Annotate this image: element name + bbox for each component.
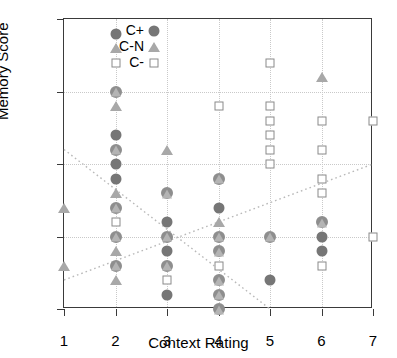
legend-marker-triangle-icon <box>148 42 160 52</box>
x-axis-tick-label: 2 <box>96 333 136 348</box>
x-axis-tick <box>322 309 323 316</box>
data-point-filled-circle <box>316 246 327 257</box>
data-point-open-square <box>266 102 275 111</box>
data-point-circle-with-triangle <box>213 245 225 257</box>
data-point-circle-with-triangle <box>110 86 122 98</box>
legend-label-c-n: C-N <box>119 38 144 54</box>
data-point-circle-with-triangle <box>316 216 328 228</box>
data-point-filled-circle <box>162 246 173 257</box>
legend-label-c-plus: C+ <box>126 22 144 38</box>
y-axis-tick <box>57 237 64 238</box>
data-point-filled-circle <box>213 202 224 213</box>
data-point-open-square <box>266 116 275 125</box>
data-point-triangle <box>110 101 122 111</box>
data-point-circle-with-triangle <box>213 303 225 315</box>
data-point-filled-circle <box>162 217 173 228</box>
x-axis-tick <box>373 309 374 316</box>
legend-label-c-minus: C- <box>129 54 144 70</box>
data-point-circle-with-triangle <box>213 289 225 301</box>
x-axis-tick <box>64 309 65 316</box>
data-point-circle-with-triangle <box>110 202 122 214</box>
data-point-open-square <box>317 261 326 270</box>
data-point-circle-with-triangle <box>161 260 173 272</box>
x-axis-tick-label: 7 <box>353 333 393 348</box>
x-axis-tick-label: 6 <box>302 333 342 348</box>
data-point-filled-circle <box>110 173 121 184</box>
legend: C+ C-N C- <box>76 23 188 71</box>
data-point-open-square <box>214 261 223 270</box>
y-axis-tick <box>57 309 64 310</box>
data-point-filled-circle <box>265 275 276 286</box>
legend-marker-filled-circle-icon <box>149 26 160 37</box>
data-point-open-square <box>266 131 275 140</box>
data-point-open-square <box>111 218 120 227</box>
data-point-filled-circle <box>162 289 173 300</box>
data-point-triangle <box>110 246 122 256</box>
data-point-open-square <box>111 58 120 67</box>
data-point-open-square <box>369 232 378 241</box>
data-point-filled-circle <box>316 231 327 242</box>
y-axis-label: Memory Score <box>0 22 11 120</box>
data-point-circle-with-triangle <box>110 231 122 243</box>
data-point-open-square <box>317 116 326 125</box>
data-point-open-square <box>369 116 378 125</box>
data-point-triangle <box>110 275 122 285</box>
x-axis-tick-label: 5 <box>250 333 290 348</box>
data-point-filled-circle <box>110 28 121 39</box>
data-point-triangle <box>58 203 70 213</box>
data-point-open-square <box>317 174 326 183</box>
x-axis-tick-label: 1 <box>44 333 84 348</box>
data-point-circle-with-triangle <box>213 274 225 286</box>
scatter-plot-figure: Memory Score Context Rating C+ C-N C- 05… <box>0 0 397 358</box>
x-axis-tick <box>167 309 168 316</box>
x-axis-tick-label: 4 <box>199 333 239 348</box>
data-point-triangle <box>110 43 122 53</box>
legend-item-c-plus: C+ <box>76 23 188 39</box>
data-point-circle-with-triangle <box>110 144 122 156</box>
data-point-open-square <box>163 276 172 285</box>
x-axis-tick <box>116 309 117 316</box>
data-point-triangle <box>316 72 328 82</box>
data-point-triangle <box>213 217 225 227</box>
data-point-circle-with-triangle <box>264 231 276 243</box>
data-point-open-square <box>317 189 326 198</box>
data-point-circle-with-triangle <box>110 260 122 272</box>
x-axis-tick-label: 3 <box>147 333 187 348</box>
legend-item-c-n: C-N <box>76 39 188 55</box>
y-axis-tick <box>57 19 64 20</box>
legend-marker-open-square-icon <box>150 59 159 68</box>
plot-area: C+ C-N C- 051015201234567 <box>63 18 372 308</box>
data-point-triangle <box>58 261 70 271</box>
y-axis-tick <box>57 92 64 93</box>
data-point-open-square <box>266 145 275 154</box>
y-axis-tick <box>57 164 64 165</box>
data-point-open-square <box>266 58 275 67</box>
legend-item-c-minus: C- <box>76 55 188 71</box>
x-axis-tick <box>270 309 271 316</box>
data-point-open-square <box>214 102 223 111</box>
data-point-circle-with-triangle <box>213 173 225 185</box>
data-point-triangle <box>110 188 122 198</box>
data-point-open-square <box>266 160 275 169</box>
data-point-triangle <box>161 145 173 155</box>
data-point-circle-with-triangle <box>213 231 225 243</box>
data-point-filled-circle <box>110 159 121 170</box>
data-point-filled-circle <box>110 130 121 141</box>
data-point-circle-with-triangle <box>161 187 173 199</box>
data-point-circle-with-triangle <box>161 231 173 243</box>
data-point-open-square <box>317 145 326 154</box>
